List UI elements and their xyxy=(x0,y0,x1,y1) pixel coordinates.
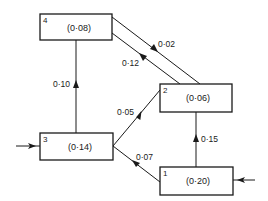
compartment-value: (0·14) xyxy=(68,142,92,152)
flow-label-2-to-4: 0·12 xyxy=(122,58,139,68)
input-to-3 xyxy=(16,143,40,149)
flow-4-to-2 xyxy=(112,17,200,84)
compartment-id: 4 xyxy=(43,16,48,25)
compartment-diagram: 4 (0·08) 2 (0·06) 3 (0·14) 1 (0·20) 0·10… xyxy=(0,0,268,201)
arrow-down-right-icon xyxy=(150,44,158,52)
arrow-up-icon xyxy=(193,134,199,142)
compartment-id: 3 xyxy=(43,135,48,144)
flow-label-3-to-4: 0·10 xyxy=(53,79,70,89)
compartment-2: 2 (0·06) xyxy=(160,84,232,112)
compartment-value: (0·20) xyxy=(186,176,210,186)
compartment-1: 1 (0·20) xyxy=(160,167,233,195)
flow-3-to-4 xyxy=(73,40,79,133)
compartment-value: (0·06) xyxy=(186,93,210,103)
arrow-up-right-icon xyxy=(136,111,143,120)
input-to-1 xyxy=(233,177,255,183)
arrow-up-left-icon xyxy=(139,53,147,61)
arrow-up-icon xyxy=(73,80,79,88)
compartment-4: 4 (0·08) xyxy=(40,14,112,40)
flow-label-1-to-2: 0·15 xyxy=(201,134,218,144)
flow-label-4-to-2: 0·02 xyxy=(158,39,175,49)
flow-3-to-2 xyxy=(113,90,160,146)
flow-1-to-2 xyxy=(193,112,199,167)
compartment-id: 1 xyxy=(163,169,168,178)
flow-label-1-to-3: 0·07 xyxy=(136,152,153,162)
compartment-id: 2 xyxy=(163,86,168,95)
compartment-value: (0·08) xyxy=(67,23,91,33)
flow-label-3-to-2: 0·05 xyxy=(117,107,134,117)
compartment-3: 3 (0·14) xyxy=(40,133,113,160)
